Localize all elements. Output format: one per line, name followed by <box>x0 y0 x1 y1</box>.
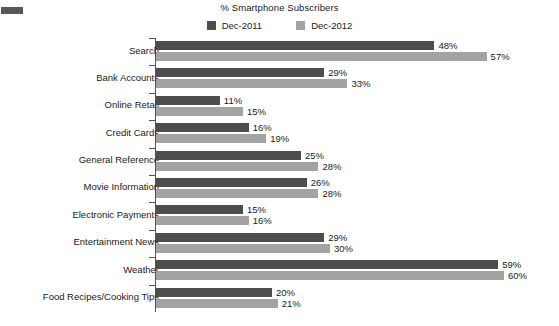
bar-line: 20% <box>156 288 559 297</box>
bar <box>156 151 301 160</box>
bar-line: 26% <box>156 178 559 187</box>
bar-line: 19% <box>156 134 559 143</box>
bar-value-label: 15% <box>247 106 266 117</box>
category-axis-label: Entertainment News <box>0 236 159 247</box>
bar-line: 48% <box>156 41 559 50</box>
bar-value-label: 28% <box>322 188 341 199</box>
bar-value-label: 30% <box>334 243 353 254</box>
bar <box>156 107 243 116</box>
bar-group: 29%30% <box>156 233 559 260</box>
bar <box>156 233 324 242</box>
bar-line: 16% <box>156 216 559 225</box>
bar-line: 16% <box>156 123 559 132</box>
axis-tick <box>149 175 155 176</box>
bar-value-label: 60% <box>508 270 527 281</box>
legend-swatch-icon <box>207 21 216 30</box>
bar-value-label: 21% <box>282 298 301 309</box>
bar-line: 15% <box>156 205 559 214</box>
bar <box>156 244 330 253</box>
bar <box>156 79 347 88</box>
bar-value-label: 29% <box>328 67 347 78</box>
axis-tick <box>149 120 155 121</box>
category-axis-label: Electronic Payments <box>0 209 159 220</box>
bar-value-label: 57% <box>491 51 510 62</box>
category-axis-label: Weather <box>0 264 159 275</box>
axis-tick <box>149 93 155 94</box>
bar <box>156 41 434 50</box>
axis-tick <box>149 230 155 231</box>
bar-line: 15% <box>156 107 559 116</box>
category-axis-label: Movie Information <box>0 181 159 192</box>
axis-tick <box>149 285 155 286</box>
category-axis-label: Food Recipes/Cooking Tips <box>0 291 159 302</box>
bar-value-label: 19% <box>270 133 289 144</box>
bar-group: 59%60% <box>156 260 559 287</box>
bar-value-label: 26% <box>311 177 330 188</box>
bar-value-label: 15% <box>247 204 266 215</box>
bar <box>156 162 318 171</box>
category-axis-label: Search <box>0 45 159 56</box>
category-axis-label: Bank Accounts <box>0 72 159 83</box>
bar <box>156 288 272 297</box>
legend-item-dec-2012: Dec-2012 <box>296 20 352 31</box>
bar-value-label: 16% <box>253 122 272 133</box>
bar <box>156 260 498 269</box>
bar-group-container: 48%57%29%33%11%15%16%19%25%28%26%28%15%1… <box>156 41 559 315</box>
bar-value-label: 48% <box>438 40 457 51</box>
axis-tick <box>149 148 155 149</box>
category-axis-label: Credit Cards <box>0 127 159 138</box>
bar <box>156 299 278 308</box>
bar <box>156 134 266 143</box>
bar <box>156 189 318 198</box>
bar-value-label: 16% <box>253 215 272 226</box>
chart-legend: Dec-2011 Dec-2012 <box>0 20 559 31</box>
chart-title: % Smartphone Subscribers <box>0 2 559 13</box>
bar <box>156 123 249 132</box>
bar-line: 29% <box>156 233 559 242</box>
bar-line: 60% <box>156 271 559 280</box>
bar-group: 11%15% <box>156 96 559 123</box>
bar <box>156 52 487 61</box>
bar <box>156 178 307 187</box>
legend-swatch-icon <box>296 21 305 30</box>
bar-value-label: 20% <box>276 287 295 298</box>
bar-line: 21% <box>156 299 559 308</box>
axis-tick <box>149 202 155 203</box>
legend-item-label: Dec-2011 <box>222 20 263 31</box>
legend-item-dec-2011: Dec-2011 <box>207 20 263 31</box>
bar <box>156 216 249 225</box>
bar-line: 29% <box>156 68 559 77</box>
bar-line: 28% <box>156 162 559 171</box>
bar-group: 20%21% <box>156 288 559 315</box>
category-axis-label: Online Retail <box>0 99 159 110</box>
bar-line: 57% <box>156 52 559 61</box>
plot-area: SearchBank AccountsOnline RetailCredit C… <box>0 38 559 326</box>
bar-value-label: 28% <box>322 161 341 172</box>
bar <box>156 271 504 280</box>
bar-value-label: 11% <box>224 95 242 106</box>
axis-tick <box>149 38 155 39</box>
bar <box>156 205 243 214</box>
bar-line: 11% <box>156 96 559 105</box>
bar-value-label: 59% <box>502 259 521 270</box>
bar-line: 28% <box>156 189 559 198</box>
legend-item-label: Dec-2012 <box>311 20 352 31</box>
bar-line: 59% <box>156 260 559 269</box>
bar-group: 48%57% <box>156 41 559 68</box>
bar-group: 29%33% <box>156 68 559 95</box>
bar-group: 25%28% <box>156 151 559 178</box>
category-axis-label: General Reference <box>0 154 159 165</box>
smartphone-subscribers-chart: % Smartphone Subscribers Dec-2011 Dec-20… <box>0 0 559 326</box>
bar-line: 25% <box>156 151 559 160</box>
bar-line: 30% <box>156 244 559 253</box>
bar-value-label: 25% <box>305 150 324 161</box>
axis-tick <box>149 65 155 66</box>
axis-tick <box>149 257 155 258</box>
bar-value-label: 29% <box>328 232 347 243</box>
bar-value-label: 33% <box>351 78 370 89</box>
bar-line: 33% <box>156 79 559 88</box>
bar-group: 15%16% <box>156 205 559 232</box>
bar-group: 16%19% <box>156 123 559 150</box>
bar-group: 26%28% <box>156 178 559 205</box>
bar <box>156 96 220 105</box>
